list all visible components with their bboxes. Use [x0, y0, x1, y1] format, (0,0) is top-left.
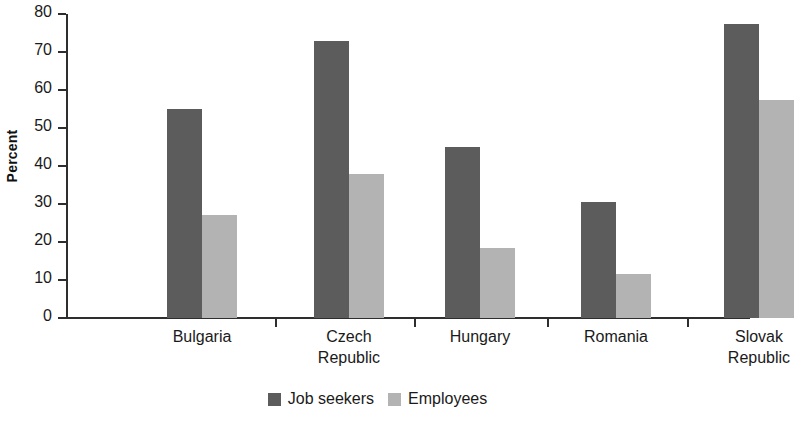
- y-tick-label: 10: [34, 269, 52, 287]
- y-tick-label: 60: [34, 79, 52, 97]
- legend-swatch-icon: [268, 393, 281, 406]
- y-tick: 40: [58, 165, 66, 167]
- y-tick-label: 30: [34, 193, 52, 211]
- bar-job-seekers: [445, 147, 480, 318]
- y-tick: 0: [58, 317, 66, 319]
- legend-label: Job seekers: [288, 390, 374, 408]
- y-tick: 60: [58, 89, 66, 91]
- y-tick-label: 0: [43, 307, 52, 325]
- bar-job-seekers: [724, 24, 759, 319]
- y-tick: 10: [58, 279, 66, 281]
- y-tick: 30: [58, 203, 66, 205]
- plot-area: 01020304050607080: [66, 14, 750, 318]
- y-tick-label: 20: [34, 231, 52, 249]
- y-tick-label: 50: [34, 117, 52, 135]
- legend-item: Employees: [388, 390, 487, 408]
- bar-employees: [480, 248, 515, 318]
- x-axis-label: Romania: [536, 326, 696, 347]
- bar-job-seekers: [314, 41, 349, 318]
- y-axis-line: [66, 14, 68, 319]
- chart-legend: Job seekersEmployees: [0, 390, 755, 408]
- legend-swatch-icon: [388, 393, 401, 406]
- y-tick: 20: [58, 241, 66, 243]
- y-tick-label: 40: [34, 155, 52, 173]
- bar-employees: [616, 274, 651, 318]
- x-axis-label: Bulgaria: [122, 326, 282, 347]
- legend-label: Employees: [408, 390, 487, 408]
- bar-employees: [759, 100, 794, 319]
- y-tick-label: 80: [34, 3, 52, 21]
- bar-employees: [349, 174, 384, 318]
- y-tick-label: 70: [34, 41, 52, 59]
- y-tick: 70: [58, 51, 66, 53]
- bar-employees: [202, 215, 237, 318]
- legend-item: Job seekers: [268, 390, 374, 408]
- y-axis-title: Percent: [4, 111, 20, 201]
- y-tick: 80: [58, 13, 66, 15]
- y-tick: 50: [58, 127, 66, 129]
- bar-job-seekers: [581, 202, 616, 318]
- x-axis-label: Slovak Republic: [679, 326, 798, 368]
- bar-job-seekers: [167, 109, 202, 318]
